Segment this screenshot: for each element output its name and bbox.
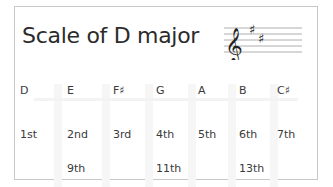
- degree-label: 7th: [277, 128, 295, 141]
- degree-label: 2nd: [67, 128, 88, 141]
- degree-label: 3rd: [113, 128, 131, 141]
- degree-label: 4th: [156, 128, 174, 141]
- note-label: A: [198, 84, 206, 97]
- note-label: F♯: [113, 84, 125, 97]
- extension-label: 13th: [239, 162, 264, 175]
- extension-label: 9th: [67, 162, 85, 175]
- svg-text:𝄞: 𝄞: [225, 27, 243, 60]
- svg-text:♯: ♯: [258, 31, 264, 46]
- note-label: D: [20, 84, 28, 97]
- note-label: G: [156, 84, 165, 97]
- degree-label: 6th: [239, 128, 257, 141]
- treble-clef-key-signature-icon: 𝄞 ♯ ♯: [206, 12, 302, 60]
- note-label: E: [67, 84, 74, 97]
- extension-label: 11th: [156, 162, 181, 175]
- note-label: C♯: [277, 84, 290, 97]
- degree-label: 5th: [198, 128, 216, 141]
- scale-title: Scale of D major: [22, 23, 199, 48]
- degree-label: 1st: [20, 128, 37, 141]
- note-label: B: [239, 84, 247, 97]
- svg-text:♯: ♯: [249, 22, 255, 37]
- row-divider: [34, 98, 298, 101]
